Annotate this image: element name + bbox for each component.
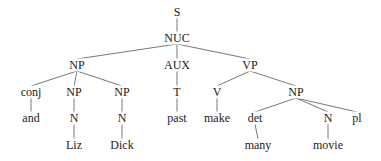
tree-node-np4: NP	[287, 86, 304, 99]
tree-node-s: S	[173, 6, 182, 19]
tree-node-np2: NP	[65, 86, 82, 99]
tree-node-many: many	[244, 139, 273, 152]
tree-node-dick: Dick	[109, 139, 134, 152]
tree-node-aux: AUX	[163, 59, 191, 72]
tree-node-past: past	[166, 112, 187, 125]
tree-node-n2: N	[117, 112, 128, 125]
tree-node-t: T	[172, 86, 181, 99]
tree-node-nuc: NUC	[163, 32, 190, 45]
tree-node-liz: Liz	[65, 139, 83, 152]
tree-node-n3: N	[323, 112, 334, 125]
tree-node-pl: pl	[351, 112, 362, 125]
tree-node-np1: NP	[68, 59, 85, 72]
tree-node-vp: VP	[241, 59, 258, 72]
syntax-tree-diagram: SNUCNPAUXVPconjNPNPTVNPandNNpastmakedetN…	[0, 0, 381, 161]
tree-node-v: V	[212, 86, 223, 99]
tree-node-np3: NP	[113, 86, 130, 99]
tree-node-make: make	[203, 112, 231, 125]
tree-node-and: and	[21, 112, 40, 125]
tree-node-n1: N	[69, 112, 80, 125]
edge-VP-V	[217, 71, 250, 86]
tree-node-det: det	[247, 112, 264, 125]
edge-NUC-NP1	[77, 44, 177, 59]
tree-node-conj: conj	[20, 86, 43, 99]
tree-node-movie: movie	[312, 139, 344, 152]
